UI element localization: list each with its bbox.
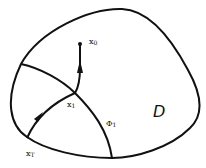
label-phi1: Φ1 [106,120,116,128]
arrow-icon [77,60,83,73]
label-x0: x0 [89,38,97,46]
label-x1: x1 [67,101,75,109]
surface-phi1 [21,64,112,158]
label-xT: xT [26,150,35,158]
diagram-canvas [0,0,206,168]
label-region-d: D [153,104,165,120]
point-x0 [78,42,82,46]
